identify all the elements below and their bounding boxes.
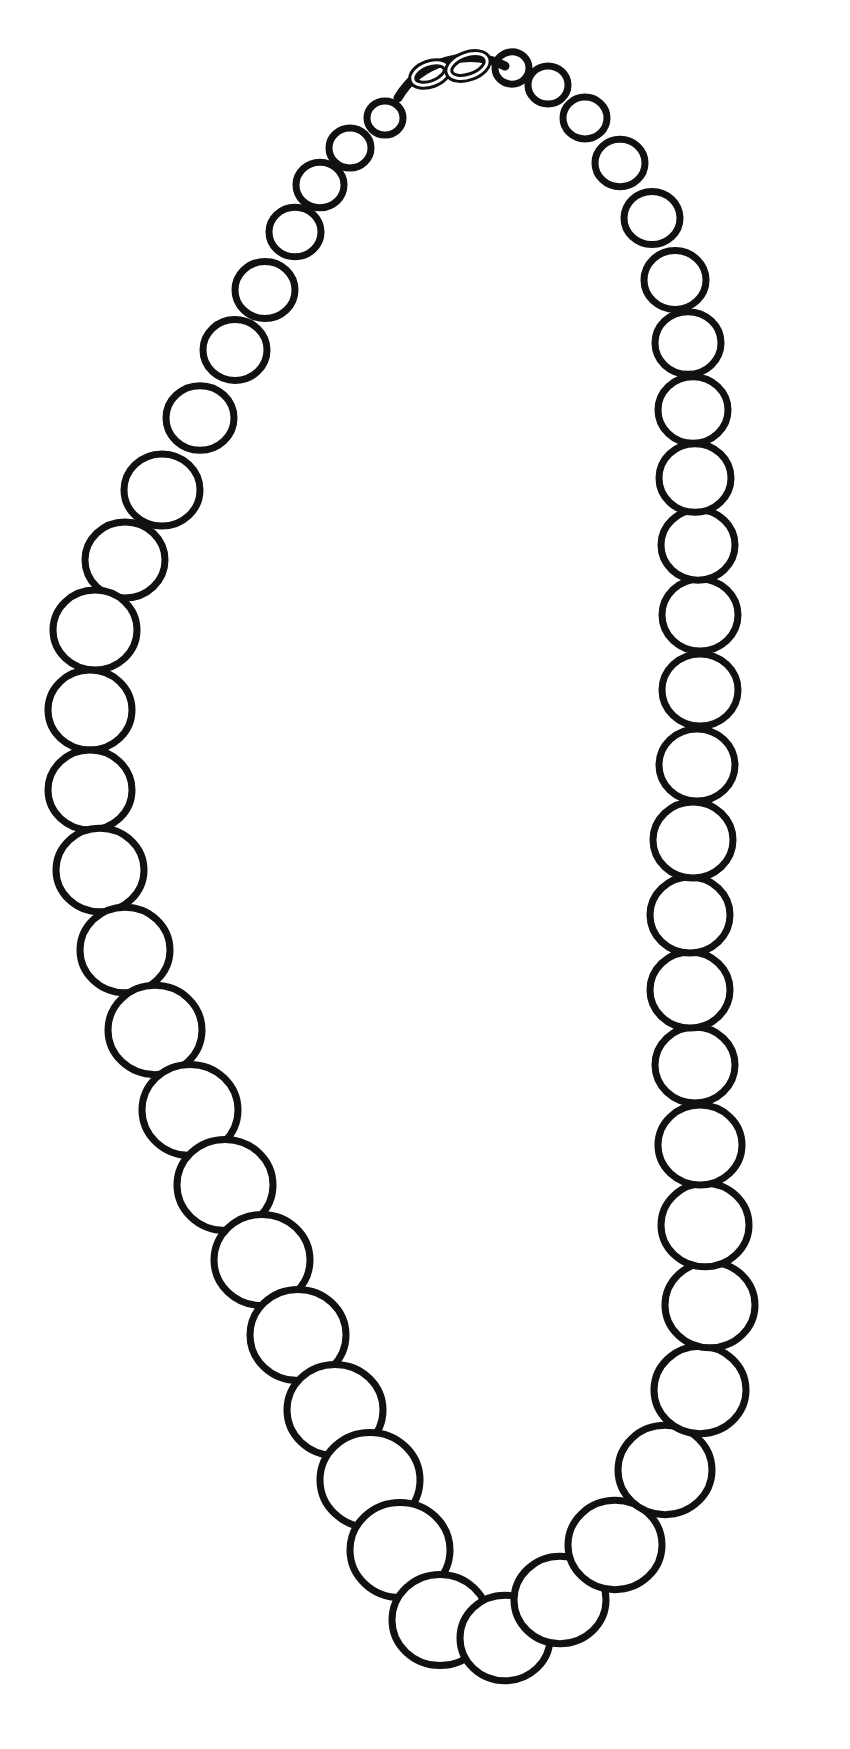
pearl-bead — [235, 262, 295, 319]
pearl-bead — [653, 802, 733, 878]
pearl-bead — [662, 654, 738, 726]
pearl-bead — [528, 66, 568, 104]
pearl-bead — [595, 139, 645, 187]
pearl-bead — [659, 729, 735, 801]
pearl-bead — [367, 101, 403, 135]
clasp-icon — [398, 49, 505, 98]
pearl-bead — [661, 510, 735, 580]
pearl-bead — [655, 312, 721, 375]
pearl-bead — [53, 590, 137, 670]
pearl-bead — [56, 828, 144, 912]
pearl-bead — [658, 377, 728, 444]
pearl-bead — [563, 97, 607, 139]
pearl-bead — [296, 162, 344, 208]
pearl-bead — [124, 454, 200, 526]
pearl-bead — [655, 1027, 735, 1103]
pearl-bead — [166, 386, 234, 451]
pearl-bead — [624, 191, 680, 244]
pearl-bead — [85, 522, 165, 598]
pearl-bead — [329, 128, 371, 168]
pearl-bead — [662, 579, 738, 651]
pearl-bead — [80, 907, 170, 993]
necklace-illustration — [0, 0, 850, 1749]
pearl-bead — [658, 1105, 742, 1185]
pearl-bead — [203, 320, 267, 381]
pearl-bead — [650, 952, 730, 1028]
pearl-bead — [48, 670, 132, 750]
pearl-bead — [654, 1346, 746, 1433]
pearl-bead — [618, 1425, 712, 1514]
pearl-bead — [659, 444, 731, 512]
pearl-bead — [269, 207, 321, 256]
pearl-bead — [665, 1262, 755, 1348]
pearl-bead — [650, 877, 730, 953]
pearl-beads — [48, 52, 755, 1681]
pearl-bead — [644, 251, 706, 310]
pearl-bead — [661, 1183, 749, 1267]
pearl-bead — [48, 750, 132, 830]
